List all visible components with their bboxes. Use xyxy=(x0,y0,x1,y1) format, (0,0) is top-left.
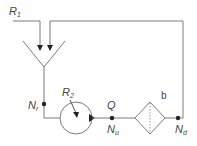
pump-icon xyxy=(60,102,92,134)
label-b: b xyxy=(161,90,167,101)
node-nd xyxy=(176,116,180,120)
flow-diagram: R1 R2 Nr Q Nu b Nd xyxy=(0,0,197,146)
label-r1: R1 xyxy=(9,5,21,18)
label-nu: Nu xyxy=(107,123,119,136)
label-nd: Nd xyxy=(175,123,188,136)
input-line-r1 xyxy=(13,21,40,46)
node-nu xyxy=(110,116,114,120)
arrow-head-feedback xyxy=(47,45,53,51)
arrow-head-r1 xyxy=(37,45,43,51)
label-q: Q xyxy=(107,99,116,111)
mixer-funnel-icon xyxy=(23,41,65,67)
label-r2: R2 xyxy=(62,86,74,99)
r2-arrow-head xyxy=(73,112,79,118)
label-nr: Nr xyxy=(28,99,39,112)
node-nr xyxy=(42,102,46,106)
